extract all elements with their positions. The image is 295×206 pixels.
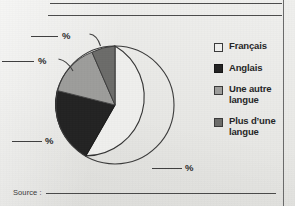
legend-swatch-francais [214, 43, 223, 52]
figure-canvas: % % % % Français Anglais Une autre langu… [0, 0, 295, 206]
callout-hook-top [89, 33, 102, 47]
legend-label-une-autre-langue: Une autre langue [229, 84, 271, 105]
callout-percent-top[interactable]: % [62, 31, 70, 41]
callout-leader-line-upper-left [2, 61, 34, 62]
title-rule-line-1[interactable] [50, 3, 282, 4]
legend: Français Anglais Une autre langue Plus d… [214, 41, 282, 148]
callout-percent-upper-left[interactable]: % [38, 56, 46, 66]
legend-item-plus-d-une-langue[interactable]: Plus d’une langue [214, 116, 282, 137]
callout-percent-lower-left[interactable]: % [45, 136, 53, 146]
legend-swatch-plus-d-une-langue [214, 118, 223, 127]
source-label: Source : [13, 188, 42, 197]
callout-leader-line-top [31, 36, 58, 37]
callout-percent-bottom-right[interactable]: % [185, 163, 193, 173]
legend-item-francais[interactable]: Français [214, 41, 282, 52]
legend-swatch-anglais [214, 64, 223, 73]
source-row: Source : [13, 188, 276, 197]
right-frame-border [283, 0, 284, 206]
legend-swatch-une-autre-langue [214, 86, 223, 95]
legend-label-anglais: Anglais [229, 63, 262, 74]
callout-leader-line-bottom-right [152, 168, 182, 169]
callout-leader-line-lower-left [12, 141, 42, 142]
source-input-rule[interactable] [46, 193, 276, 194]
title-rule-line-2[interactable] [48, 15, 282, 16]
legend-label-francais: Français [229, 41, 267, 52]
legend-item-anglais[interactable]: Anglais [214, 63, 282, 74]
legend-label-plus-d-une-langue: Plus d’une langue [229, 116, 276, 137]
callout-hook-upper-left [58, 58, 74, 72]
legend-item-une-autre-langue[interactable]: Une autre langue [214, 84, 282, 105]
